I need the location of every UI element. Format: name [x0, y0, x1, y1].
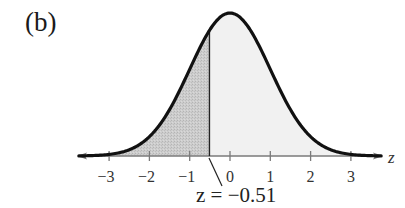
- normal-distribution-figure: (b) −3−2−10123 z z = −0.51: [0, 0, 405, 208]
- axis-tick-label: −2: [138, 168, 155, 185]
- axis-tick-label: −1: [178, 168, 195, 185]
- z-axis-label: z: [387, 148, 395, 167]
- normal-curve-chart: −3−2−10123 z z = −0.51: [0, 0, 405, 208]
- z-value-annotation: z = −0.51: [196, 183, 276, 207]
- annotation-leader-line: [209, 158, 222, 186]
- shaded-region-right-of-z: [209, 13, 363, 156]
- axis-tick-label: −3: [98, 168, 115, 185]
- axis-tick-label: 2: [307, 168, 315, 185]
- axis-tick-label: 3: [347, 168, 355, 185]
- shaded-region-left-of-z: [97, 30, 209, 156]
